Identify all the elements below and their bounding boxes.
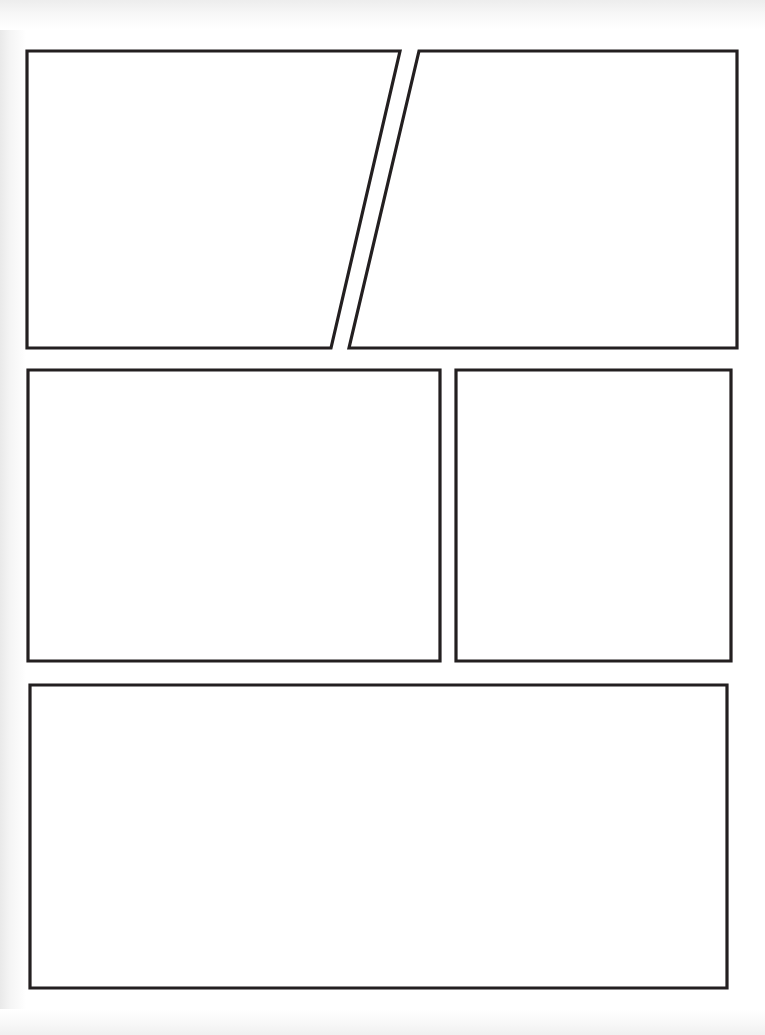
panel-1[interactable]	[27, 51, 400, 348]
panel-2[interactable]	[349, 51, 737, 348]
panel-4[interactable]	[456, 370, 731, 661]
panel-5[interactable]	[30, 685, 727, 988]
panel-grid	[0, 0, 765, 1035]
comic-page: Panel 1 Panel 2 Panel 3 Panel 4 Panel 5 …	[0, 0, 765, 1035]
panel-3[interactable]	[28, 370, 440, 661]
